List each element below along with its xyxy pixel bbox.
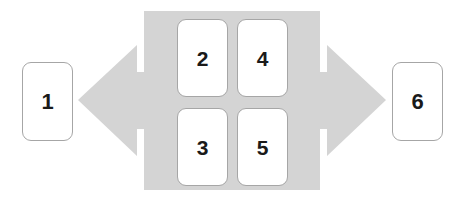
node-label-3: 3 [197,137,209,158]
node-label-6: 6 [411,91,423,113]
node-label-4: 4 [257,48,269,69]
node-label-1: 1 [41,91,53,113]
node-label-2: 2 [197,48,209,69]
center-panel [144,11,320,190]
diagram-canvas: 1 2 4 3 5 6 [0,0,467,201]
node-box-1[interactable]: 1 [22,62,73,141]
right-arrow [320,45,386,156]
node-box-2[interactable]: 2 [177,19,228,97]
node-box-4[interactable]: 4 [237,19,288,97]
node-box-5[interactable]: 5 [237,108,288,186]
node-label-5: 5 [257,137,269,158]
node-box-3[interactable]: 3 [177,108,228,186]
left-arrow [78,45,144,156]
node-box-6[interactable]: 6 [392,62,443,141]
